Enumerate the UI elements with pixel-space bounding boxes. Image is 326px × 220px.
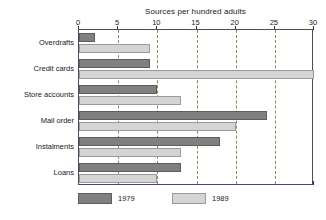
category-label-instalments: Instalments (0, 142, 74, 151)
x-tick-mark-bottom-30 (313, 181, 314, 185)
bar-overdrafts-1979 (79, 33, 95, 43)
category-label-mail-order: Mail order (0, 116, 74, 125)
bar-instalments-1989 (79, 148, 181, 158)
gridline-10 (157, 30, 158, 184)
bar-loans-1989 (79, 174, 157, 184)
bar-credit-cards-1989 (79, 70, 314, 80)
bar-overdrafts-1989 (79, 44, 150, 54)
category-label-loans: Loans (0, 168, 74, 177)
gridline-20 (236, 30, 237, 184)
bar-store-accounts-1979 (79, 85, 157, 95)
dark-gray-swatch (78, 193, 112, 204)
category-axis-labels: OverdraftsCredit cardsStore accountsMail… (0, 0, 74, 220)
legend-item-1979[interactable]: 1979 (78, 193, 135, 204)
legend-label-1979: 1979 (118, 194, 135, 203)
gridline-15 (197, 30, 198, 184)
bar-instalments-1979 (79, 137, 220, 147)
light-gray-swatch (172, 193, 206, 204)
bar-credit-cards-1979 (79, 59, 150, 69)
category-label-store-accounts: Store accounts (0, 90, 74, 99)
legend-item-1989[interactable]: 1989 (172, 193, 229, 204)
legend-label-1989: 1989 (212, 194, 229, 203)
bar-chart: Sources per hundred adults 051015202530 … (0, 0, 326, 220)
bar-store-accounts-1989 (79, 96, 181, 106)
gridline-25 (275, 30, 276, 184)
chart-title: Sources per hundred adults (78, 7, 313, 16)
category-label-overdrafts: Overdrafts (0, 38, 74, 47)
bar-mail-order-1989 (79, 122, 236, 132)
bar-mail-order-1979 (79, 111, 267, 121)
bar-loans-1979 (79, 163, 181, 173)
category-label-credit-cards: Credit cards (0, 64, 74, 73)
x-tick-mark-top-30 (313, 26, 314, 30)
plot-area (78, 29, 313, 185)
